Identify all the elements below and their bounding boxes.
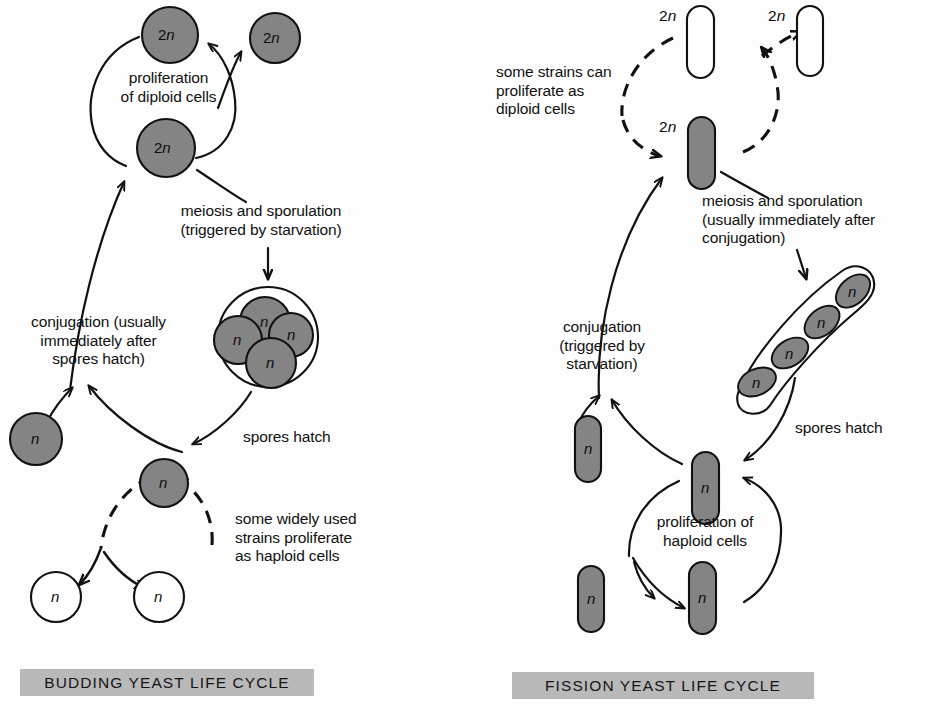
fission-label-spore-1: n xyxy=(752,374,760,391)
fission-cell-spore-3 xyxy=(798,299,845,345)
budding-label-haploid-daughter-right: n xyxy=(154,588,162,605)
budding-haploid-arc-left xyxy=(101,477,150,548)
budding-label-diploid-bud: 2n xyxy=(263,29,280,46)
fission-cell-haploid-daughter-left xyxy=(578,566,604,632)
budding-haploid-arc-right xyxy=(178,479,212,545)
budding-label-haploid-mate: n xyxy=(31,430,39,447)
budding-ascus-wall xyxy=(218,287,318,387)
fission-label-spore-2: n xyxy=(785,345,793,362)
fission-haploid-split-left-curve xyxy=(634,562,654,598)
fission-diploid-arc-right xyxy=(743,48,778,152)
budding-yeast-banner: BUDDING YEAST LIFE CYCLE xyxy=(20,669,314,696)
budding-cell-haploid-daughter-left xyxy=(31,572,81,622)
budding-meiosis-curve xyxy=(197,170,246,202)
fission-caption-diploid-strains: some strains can proliferate as diploid … xyxy=(496,63,666,119)
fission-cell-haploid-daughter-right xyxy=(689,562,716,634)
budding-caption-conjugation: conjugation (usually immediately after s… xyxy=(2,313,195,369)
budding-caption-meiosis: meiosis and sporulation (triggered by st… xyxy=(153,202,369,239)
fission-label-haploid-daughter-left: n xyxy=(587,590,595,607)
budding-cell-diploid-bud xyxy=(250,13,300,63)
fission-label-haploid-mate: n xyxy=(584,440,592,457)
fission-label-diploid-daughter-right: 2n xyxy=(768,7,785,25)
budding-cell-spore-2 xyxy=(214,316,262,364)
fission-cell-haploid-mate xyxy=(575,416,601,482)
fission-caption-proliferation: proliferation of haploid cells xyxy=(621,513,789,550)
budding-label-diploid-top: 2n xyxy=(158,26,175,43)
fission-label-diploid-zygote: 2n xyxy=(659,118,676,136)
budding-caption-haploid-strains: some widely used strains proliferate as … xyxy=(235,510,415,566)
budding-cell-spore-4 xyxy=(246,338,296,388)
fission-label-haploid-hub: n xyxy=(701,479,709,496)
budding-conjugation-arrow-from-mate xyxy=(47,388,72,422)
budding-label-spore-2: n xyxy=(233,331,241,348)
fission-label-diploid-daughter-left: 2n xyxy=(659,7,676,25)
fission-caption-meiosis: meiosis and sporulation (usually immedia… xyxy=(702,192,929,248)
budding-cell-diploid-bottom xyxy=(137,119,195,177)
budding-label-spore-4: n xyxy=(266,354,274,371)
budding-cell-spore-1 xyxy=(240,297,290,347)
budding-label-haploid-daughter-left: n xyxy=(51,588,59,605)
budding-cell-haploid-hub xyxy=(140,459,188,507)
fission-caption-conjugation: conjugation (triggered by starvation) xyxy=(532,318,672,374)
fission-label-spore-3: n xyxy=(817,314,825,331)
budding-cell-haploid-daughter-right xyxy=(134,572,184,622)
fission-spores-hatch-arrow xyxy=(745,378,795,460)
fission-ascus-wall xyxy=(737,266,874,413)
budding-caption-spores-hatch: spores hatch xyxy=(243,428,373,447)
budding-cell-diploid-top xyxy=(142,7,198,63)
budding-label-spore-1: n xyxy=(260,313,268,330)
budding-haploid-split-right xyxy=(104,552,144,588)
fission-diploid-bud-arrow xyxy=(762,32,800,56)
fission-meiosis-arrow xyxy=(797,250,806,278)
fission-diploid-arc-left-end xyxy=(623,120,660,156)
fission-yeast-banner: FISSION YEAST LIFE CYCLE xyxy=(512,672,814,699)
budding-label-spore-3: n xyxy=(287,326,295,343)
fission-cell-spore-1 xyxy=(733,362,780,402)
budding-conjugation-arrow-from-hub xyxy=(89,386,182,452)
fission-cell-diploid-daughter-left xyxy=(687,6,714,78)
budding-haploid-split-left xyxy=(80,548,101,584)
budding-caption-proliferation: proliferation of diploid cells xyxy=(96,69,241,106)
fission-cell-diploid-zygote xyxy=(688,117,715,189)
fission-conjugation-arrow-from-hub xyxy=(612,400,682,464)
fission-label-haploid-daughter-right: n xyxy=(698,589,706,606)
fission-cell-spore-2 xyxy=(766,331,814,375)
fission-cell-spore-4 xyxy=(830,268,877,314)
fission-conjugation-arrow-from-mate xyxy=(578,396,599,424)
fission-haploid-split-right-curve xyxy=(633,558,684,608)
budding-cell-haploid-mate xyxy=(10,413,62,465)
fission-caption-spores-hatch: spores hatch xyxy=(795,419,925,438)
fission-cell-diploid-daughter-right xyxy=(797,6,823,76)
yeast-life-cycle-figure: 2n 2n 2n n n n n n n n n proliferation o… xyxy=(0,0,929,704)
budding-label-diploid-bottom: 2n xyxy=(154,139,171,156)
budding-cell-spore-3 xyxy=(269,313,313,357)
budding-label-haploid-hub: n xyxy=(159,474,167,491)
fission-label-spore-4: n xyxy=(848,283,856,300)
